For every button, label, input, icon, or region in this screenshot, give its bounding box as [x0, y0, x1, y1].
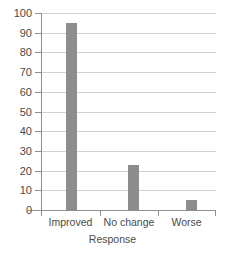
y-tick-label-80: 80: [4, 47, 32, 58]
bar-no-change: [128, 165, 139, 210]
y-tick-label-10: 10: [4, 185, 32, 196]
y-tick-50: [35, 112, 41, 113]
y-axis-line: [41, 13, 42, 210]
x-tick-label-worse: Worse: [158, 216, 215, 228]
y-tick-80: [35, 52, 41, 53]
x-tick-label-improved: Improved: [41, 216, 100, 228]
y-tick-label-40: 40: [4, 126, 32, 137]
y-tick-label-70: 70: [4, 67, 32, 78]
x-axis-title: Response: [0, 233, 225, 245]
gridline-100: [41, 13, 216, 14]
y-tick-60: [35, 92, 41, 93]
y-tick-90: [35, 33, 41, 34]
plot-area: [41, 13, 216, 210]
y-tick-20: [35, 171, 41, 172]
y-tick-70: [35, 72, 41, 73]
bar-worse: [186, 200, 197, 210]
y-tick-30: [35, 151, 41, 152]
x-separator-right: [215, 210, 216, 216]
y-tick-label-0: 0: [4, 205, 32, 216]
y-tick-label-50: 50: [4, 107, 32, 118]
bar-chart: 100 90 80 70 60 50 40 30 20 10 0 Improve…: [0, 0, 225, 253]
y-tick-label-20: 20: [4, 166, 32, 177]
y-tick-label-90: 90: [4, 28, 32, 39]
bar-improved: [66, 23, 77, 210]
y-tick-label-30: 30: [4, 146, 32, 157]
x-tick-label-no-change: No change: [100, 216, 158, 228]
y-tick-10: [35, 190, 41, 191]
x-axis-line: [28, 210, 216, 211]
y-tick-100: [35, 13, 41, 14]
y-tick-label-100: 100: [4, 8, 32, 19]
y-tick-label-60: 60: [4, 87, 32, 98]
y-tick-40: [35, 131, 41, 132]
